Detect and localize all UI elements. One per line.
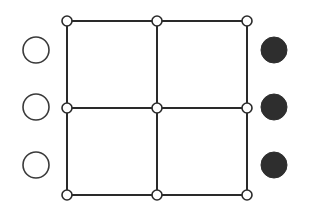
grid-node-n22 [242,190,252,200]
grid-node-n00 [62,16,72,26]
open-circle-icon [23,94,49,120]
grid-node-n01 [62,103,72,113]
grid-node-n10 [152,16,162,26]
filled-circle-icon [261,94,287,120]
filled-circle-column [261,37,287,178]
diagram-canvas [0,0,309,218]
grid-diagram [0,0,309,218]
grid-node-n21 [242,103,252,113]
grid-node-n02 [62,190,72,200]
grid-node-n11 [152,103,162,113]
open-circle-column [23,37,49,178]
filled-circle-icon [261,37,287,63]
open-circle-icon [23,37,49,63]
grid-node-n20 [242,16,252,26]
grid-node-n12 [152,190,162,200]
filled-circle-icon [261,152,287,178]
open-circle-icon [23,152,49,178]
